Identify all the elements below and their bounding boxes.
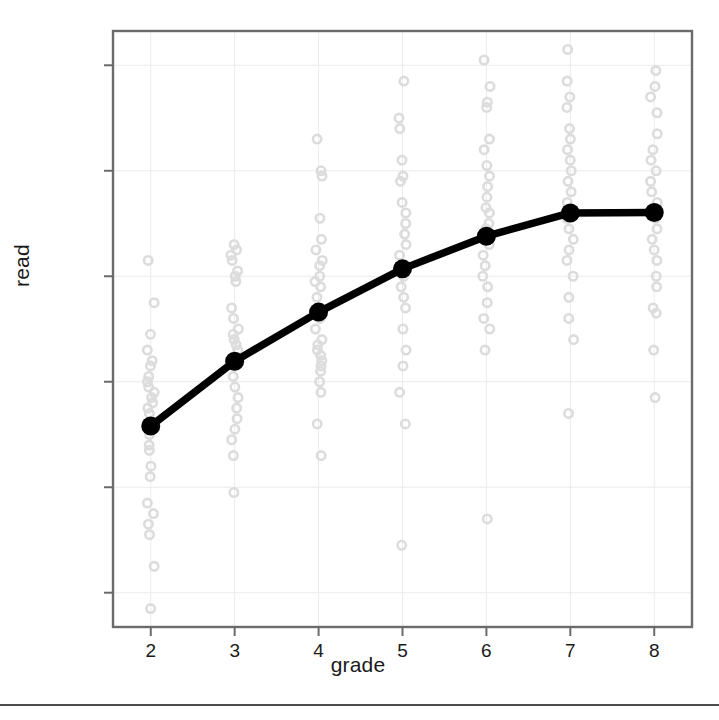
- chart-figure: 240220200180160140 2345678 read grade: [0, 0, 719, 720]
- x-tick-label: 7: [565, 640, 576, 662]
- x-tick-label: 6: [481, 640, 492, 662]
- x-tick-label: 2: [145, 640, 156, 662]
- x-tick-label: 4: [313, 640, 324, 662]
- x-axis-title: grade: [331, 653, 386, 677]
- y-axis-title: read: [10, 244, 34, 287]
- x-tick-label: 8: [649, 640, 660, 662]
- x-tick-label: 3: [229, 640, 240, 662]
- x-tick-label: 5: [397, 640, 408, 662]
- x-axis-tick-labels: 2345678: [0, 0, 719, 720]
- figure-bottom-rule: [0, 704, 719, 706]
